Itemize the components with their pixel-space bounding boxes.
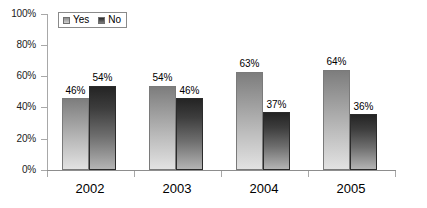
legend-item-no[interactable]: No <box>98 15 121 25</box>
y-tick-label-60: 60% <box>0 71 36 81</box>
bar-yes-2004[interactable] <box>236 72 263 170</box>
bar-value-no-2005: 36% <box>350 101 377 112</box>
plot-area: 46% 54% 54% 46% 63% 37% 64% 36% <box>47 14 396 170</box>
y-tick-label-20: 20% <box>0 134 36 144</box>
x-category-label-2003: 2003 <box>132 181 222 196</box>
bar-chart: 100% 80% 60% 40% 20% 0% 2002 2003 2004 2… <box>0 0 427 208</box>
bar-yes-2003[interactable] <box>149 86 176 170</box>
bar-no-2003[interactable] <box>176 98 203 170</box>
bar-value-no-2002: 54% <box>89 72 116 83</box>
x-tick-mark-3 <box>308 171 309 177</box>
y-tick-label-80: 80% <box>0 40 36 50</box>
y-tick-label-0: 0% <box>0 165 36 175</box>
legend-item-yes[interactable]: Yes <box>63 15 89 25</box>
bar-value-yes-2003: 54% <box>149 72 176 83</box>
x-tick-mark-0 <box>47 171 48 177</box>
bar-value-yes-2002: 46% <box>62 85 89 96</box>
x-tick-mark-1 <box>134 171 135 177</box>
bar-no-2005[interactable] <box>350 114 377 170</box>
bar-value-yes-2005: 64% <box>323 56 350 67</box>
bar-value-no-2004: 37% <box>263 99 290 110</box>
x-category-label-2002: 2002 <box>45 181 135 196</box>
no-swatch-icon <box>98 17 105 24</box>
bar-no-2002[interactable] <box>89 86 116 170</box>
bar-yes-2002[interactable] <box>62 98 89 170</box>
yes-swatch-icon <box>63 17 70 24</box>
bar-value-yes-2004: 63% <box>236 58 263 69</box>
bar-no-2004[interactable] <box>263 112 290 170</box>
x-tick-mark-4 <box>395 171 396 177</box>
legend: Yes No <box>58 12 127 28</box>
x-category-label-2004: 2004 <box>219 181 309 196</box>
x-tick-mark-2 <box>221 171 222 177</box>
y-tick-label-100: 100% <box>0 9 36 19</box>
x-category-label-2005: 2005 <box>306 181 396 196</box>
bar-value-no-2003: 46% <box>176 85 203 96</box>
bar-yes-2005[interactable] <box>323 70 350 170</box>
legend-label-yes: Yes <box>73 15 89 25</box>
y-tick-label-40: 40% <box>0 102 36 112</box>
legend-label-no: No <box>108 15 121 25</box>
